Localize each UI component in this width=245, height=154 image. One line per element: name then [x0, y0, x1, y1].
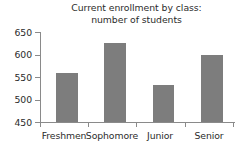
chart-title-line-2: number of students	[30, 14, 243, 26]
x-axis-line	[40, 122, 235, 123]
x-axis-tick	[185, 122, 186, 127]
y-axis-tick-label: 600	[2, 50, 32, 59]
y-axis-tick-label: 450	[2, 118, 32, 127]
bar-sophomore	[104, 43, 126, 122]
x-axis-label-junior: Junior	[134, 130, 186, 141]
y-axis-tick-label: 500	[2, 95, 32, 104]
x-axis-tick	[136, 122, 137, 127]
bar-chart: Current enrollment by class: number of s…	[0, 0, 245, 154]
chart-title-line-1: Current enrollment by class:	[30, 2, 243, 14]
bar-senior	[201, 55, 223, 123]
bar-freshmen	[56, 73, 78, 123]
x-axis-label-senior: Senior	[181, 130, 237, 141]
chart-title: Current enrollment by class: number of s…	[30, 2, 243, 25]
bar-junior	[153, 85, 174, 122]
y-axis-tick-label: 650	[2, 28, 32, 37]
plot-area	[40, 32, 234, 122]
y-axis-tick-label: 550	[2, 73, 32, 82]
x-axis-tick	[88, 122, 89, 127]
x-axis-tick	[40, 122, 41, 127]
x-axis-tick	[233, 122, 234, 127]
